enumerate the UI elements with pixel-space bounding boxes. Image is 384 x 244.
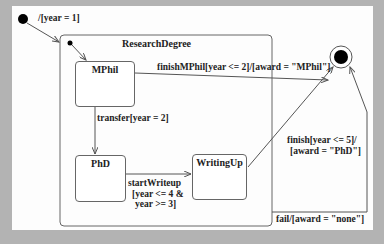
finish-action-label: [award = "PhD"] bbox=[290, 146, 361, 156]
state-writingup: WritingUp bbox=[192, 154, 247, 200]
state-mphil: MPhil bbox=[75, 61, 135, 107]
state-phd: PhD bbox=[75, 155, 126, 202]
inner-initial-state-icon bbox=[68, 41, 73, 46]
state-name: PhD bbox=[76, 158, 125, 169]
finish-mphil-label: finishMPhil[year <= 2]/[award = "MPhil"] bbox=[157, 62, 330, 72]
composite-state-name: ResearchDegree bbox=[122, 39, 191, 49]
state-name: WritingUp bbox=[193, 157, 246, 168]
transfer-label: transfer[year = 2] bbox=[97, 113, 169, 123]
initial-transition-label: /[year = 1] bbox=[38, 13, 80, 23]
fail-label: fail/[award = "none"] bbox=[276, 214, 364, 224]
state-name: MPhil bbox=[76, 64, 134, 75]
transition-lines bbox=[0, 0, 384, 244]
finish-label: finish[year <= 5]/ bbox=[287, 135, 357, 145]
start-writeup-label: startWriteup bbox=[128, 178, 181, 188]
initial-state-icon bbox=[18, 14, 28, 24]
start-writeup-guard-1: [year <= 4 & bbox=[132, 189, 184, 199]
start-writeup-guard-2: year >= 3] bbox=[135, 199, 176, 209]
